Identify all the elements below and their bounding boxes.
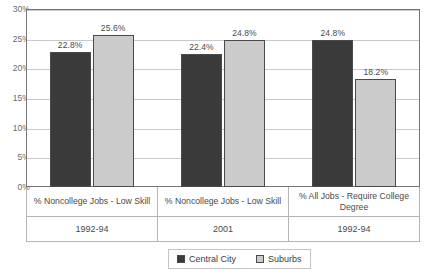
legend-label: Suburbs [268,254,302,264]
category-year-label: 1992-94 [27,217,157,241]
bar-central-city [312,40,353,187]
bar-value-label: 18.2% [351,67,400,77]
bar-suburbs [224,40,265,187]
bar-group: 24.8%18.2% [289,9,420,187]
bar-value-label: 25.6% [89,23,138,33]
legend-item: Central City [177,254,236,264]
bar-group: 22.8%25.6% [26,9,157,187]
bar-central-city [181,54,222,187]
category-label: % Noncollege Jobs - Low Skill [27,187,157,217]
category-label: % All Jobs - Require College Degree [289,187,419,217]
bars-layer: 22.8%25.6%22.4%24.8%24.8%18.2% [26,9,420,187]
category-table: % Noncollege Jobs - Low Skill1992-94% No… [26,187,420,242]
bar-value-label: 24.8% [308,28,357,38]
category-year-label: 2001 [158,217,288,241]
legend-item: Suburbs [256,254,302,264]
bar-central-city [50,52,91,187]
legend-swatch-icon [256,255,264,263]
category-column: % Noncollege Jobs - Low Skill1992-94 [27,187,158,241]
bar-value-label: 22.4% [177,42,226,52]
bar-group: 22.4%24.8% [157,9,288,187]
legend-label: Central City [189,254,236,264]
bar-value-label: 24.8% [220,28,269,38]
legend-swatch-icon [177,255,185,263]
category-label: % Noncollege Jobs - Low Skill [158,187,288,217]
chart-legend: Central CitySuburbs [168,249,311,269]
category-column: % All Jobs - Require College Degree1992-… [289,187,419,241]
bar-suburbs [355,79,396,187]
category-column: % Noncollege Jobs - Low Skill2001 [158,187,289,241]
bar-value-label: 22.8% [46,40,95,50]
category-year-label: 1992-94 [289,217,419,241]
bar-suburbs [93,35,134,187]
bar-chart: 0%5%10%15%20%25%30% 22.8%25.6%22.4%24.8%… [0,0,446,278]
